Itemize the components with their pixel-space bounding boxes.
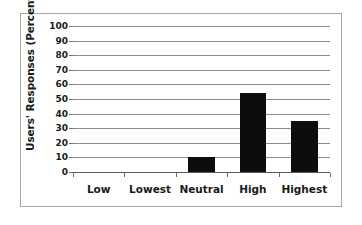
gridline-0 [73, 172, 330, 173]
y-tick-label-50: 50 [42, 95, 68, 104]
gridline-50 [73, 99, 330, 100]
x-tick-label-lowest: Lowest [124, 181, 175, 197]
bar-high [240, 93, 267, 172]
bar-chart-figure: Users' Responses (Percentage) 1009080706… [0, 0, 362, 225]
y-tick-label-20: 20 [42, 139, 68, 148]
gridline-40 [73, 114, 330, 115]
y-tick-label-100: 100 [42, 22, 68, 31]
y-tick-label-40: 40 [42, 110, 68, 119]
x-tick-mark-1 [124, 173, 125, 177]
x-tick-mark-5 [330, 173, 331, 177]
x-tick-label-low: Low [73, 181, 124, 197]
gridline-90 [73, 41, 330, 42]
y-axis-title: Users' Responses (Percentage) [21, 0, 39, 151]
y-tick-mark-70 [69, 70, 73, 71]
y-tick-label-10: 10 [42, 153, 68, 162]
y-tick-label-80: 80 [42, 51, 68, 60]
plot-area [73, 26, 330, 172]
y-tick-label-0: 0 [42, 168, 68, 177]
y-tick-label-90: 90 [42, 37, 68, 46]
y-tick-mark-60 [69, 84, 73, 85]
gridline-100 [73, 26, 330, 27]
y-tick-label-30: 30 [42, 124, 68, 133]
y-tick-mark-10 [69, 157, 73, 158]
y-tick-mark-80 [69, 55, 73, 56]
y-tick-label-60: 60 [42, 80, 68, 89]
y-tick-mark-40 [69, 114, 73, 115]
bar-neutral [188, 157, 215, 172]
x-tick-mark-2 [176, 173, 177, 177]
gridline-80 [73, 55, 330, 56]
y-tick-mark-100 [69, 26, 73, 27]
x-tick-mark-4 [279, 173, 280, 177]
gridline-60 [73, 84, 330, 85]
y-tick-mark-0 [69, 172, 73, 173]
x-tick-label-highest: Highest [279, 181, 330, 197]
y-tick-mark-90 [69, 41, 73, 42]
x-tick-mark-3 [227, 173, 228, 177]
y-tick-label-70: 70 [42, 66, 68, 75]
x-tick-label-high: High [227, 181, 278, 197]
y-axis-tick-labels: 1009080706050403020100 [40, 0, 68, 225]
y-tick-mark-30 [69, 128, 73, 129]
gridline-70 [73, 70, 330, 71]
x-tick-mark-0 [73, 173, 74, 177]
y-tick-mark-20 [69, 143, 73, 144]
y-tick-mark-50 [69, 99, 73, 100]
bar-highest [291, 121, 318, 172]
x-tick-label-neutral: Neutral [176, 181, 227, 197]
x-axis-tick-labels: LowLowestNeutralHighHighest [73, 181, 330, 197]
